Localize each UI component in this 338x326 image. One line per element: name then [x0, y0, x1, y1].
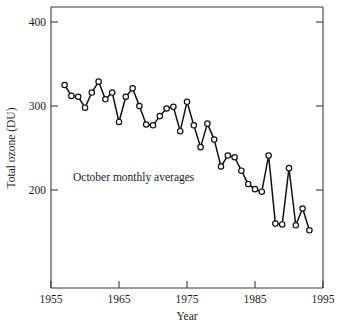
- data-point: [96, 79, 101, 84]
- data-point: [130, 86, 135, 91]
- data-point: [191, 123, 196, 128]
- x-tick-label-1985: 1985: [244, 293, 267, 305]
- data-point: [144, 122, 149, 127]
- data-point: [164, 106, 169, 111]
- x-tick-label-1975: 1975: [176, 293, 199, 305]
- data-point: [307, 228, 312, 233]
- data-point: [300, 206, 305, 211]
- ozone-chart-figure: 400 300 200 1955 1965 1975 1985 1995 Yea…: [0, 0, 338, 326]
- data-point: [62, 82, 67, 87]
- data-point: [171, 104, 176, 109]
- data-point: [212, 137, 217, 142]
- chart-annotation: October monthly averages: [73, 171, 195, 184]
- data-point: [110, 90, 115, 95]
- data-point: [116, 119, 121, 124]
- data-point: [103, 97, 108, 102]
- y-tick-label-300: 300: [29, 100, 47, 112]
- data-point: [157, 113, 162, 118]
- data-point: [246, 181, 251, 186]
- data-point: [76, 94, 81, 99]
- data-point: [232, 155, 237, 160]
- x-tick-label-1955: 1955: [40, 293, 63, 305]
- data-point: [286, 165, 291, 170]
- data-point: [184, 99, 189, 104]
- x-tick-label-1965: 1965: [108, 293, 131, 305]
- data-point: [178, 129, 183, 134]
- chart-canvas: 400 300 200 1955 1965 1975 1985 1995 Yea…: [0, 0, 338, 326]
- data-point: [266, 153, 271, 158]
- data-point: [205, 121, 210, 126]
- x-axis-title: Year: [176, 310, 197, 322]
- data-point: [273, 221, 278, 226]
- data-point: [280, 222, 285, 227]
- data-point: [89, 90, 94, 95]
- x-tick-label-1995: 1995: [312, 293, 335, 305]
- data-point: [259, 189, 264, 194]
- data-point: [218, 164, 223, 169]
- data-point: [252, 186, 257, 191]
- data-point: [137, 103, 142, 108]
- data-point: [239, 168, 244, 173]
- y-axis-title: Total ozone (DU): [5, 107, 18, 188]
- y-tick-label-400: 400: [29, 16, 47, 28]
- data-point: [82, 105, 87, 110]
- y-tick-label-200: 200: [29, 184, 47, 196]
- data-point: [225, 153, 230, 158]
- data-point: [123, 94, 128, 99]
- data-point: [69, 93, 74, 98]
- data-point: [198, 144, 203, 149]
- data-point: [150, 123, 155, 128]
- data-point: [293, 223, 298, 228]
